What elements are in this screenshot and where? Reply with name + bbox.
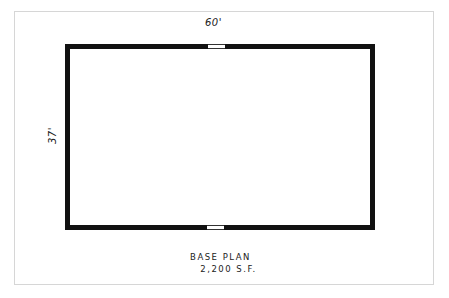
- right-wall: [370, 44, 375, 230]
- top-wall-left: [65, 44, 208, 49]
- width-dimension-label: 60': [205, 17, 222, 28]
- plan-title: BASE PLAN: [0, 252, 445, 262]
- top-wall-right: [225, 44, 375, 49]
- top-opening: [208, 45, 225, 49]
- left-wall: [65, 44, 70, 230]
- depth-dimension-label: 37': [47, 127, 58, 144]
- bottom-wall-left: [65, 225, 207, 230]
- bottom-opening: [207, 226, 224, 230]
- bottom-wall-right: [224, 225, 375, 230]
- building-walls: [65, 44, 375, 230]
- plan-area: 2,200 S.F.: [4, 264, 449, 274]
